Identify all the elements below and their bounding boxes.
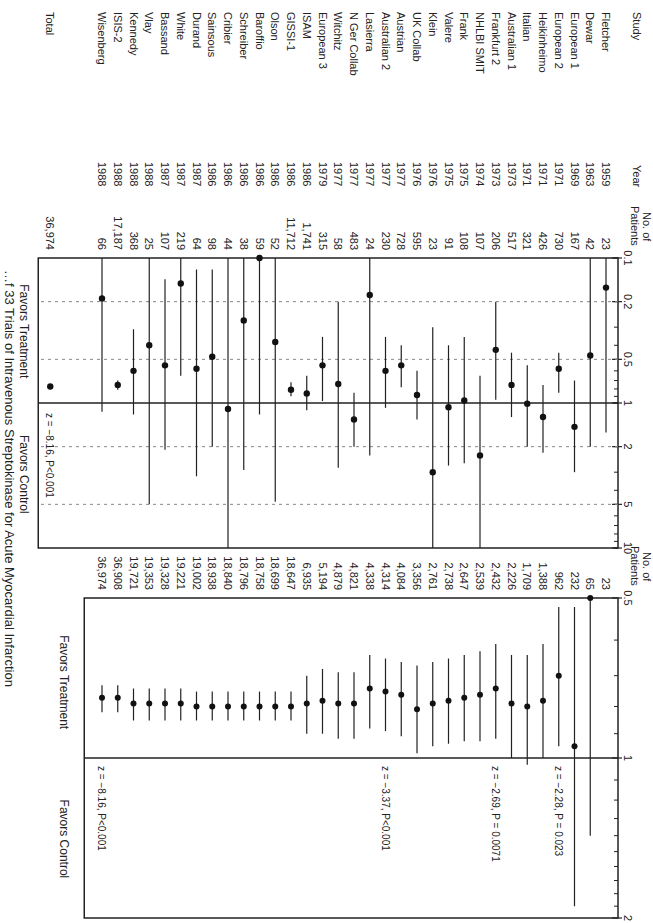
point-estimate bbox=[398, 362, 404, 368]
study-patients: 230 bbox=[380, 232, 392, 250]
study-year: 1977 bbox=[348, 162, 360, 186]
x-tick-label: 0.2 bbox=[622, 294, 634, 309]
x-tick-label: 0.1 bbox=[622, 250, 634, 265]
cumulative-estimate bbox=[540, 698, 546, 704]
cumulative-patients: 36,974 bbox=[96, 556, 108, 590]
study-name: Klein bbox=[427, 12, 439, 36]
cumulative-estimate bbox=[461, 695, 467, 701]
x-tick-label: 5 bbox=[622, 501, 634, 507]
point-estimate bbox=[178, 280, 184, 286]
cumulative-estimate bbox=[288, 703, 294, 709]
study-year: 1959 bbox=[600, 162, 612, 186]
favors-treatment-label: Favors Treatment bbox=[57, 635, 71, 730]
point-estimate bbox=[556, 365, 562, 371]
study-name: Fletcher bbox=[600, 12, 612, 52]
study-patients: 321 bbox=[521, 232, 533, 250]
total-patients: 36,974 bbox=[44, 216, 56, 250]
x-tick-label: 0.5 bbox=[622, 590, 634, 605]
cumulative-patients: 18,758 bbox=[254, 556, 266, 590]
point-estimate bbox=[587, 352, 593, 358]
forest-plot-figure: StudyYearNo. ofPatients0.10.20.512510Fle… bbox=[0, 0, 653, 923]
point-estimate bbox=[304, 390, 310, 396]
x-tick-label: 0.5 bbox=[622, 352, 634, 367]
point-estimate bbox=[115, 382, 121, 388]
point-estimate bbox=[603, 284, 609, 290]
point-estimate bbox=[193, 365, 199, 371]
study-year: 1986 bbox=[269, 162, 281, 186]
cumulative-patients: 2,432 bbox=[490, 562, 502, 590]
cumulative-estimate bbox=[320, 698, 326, 704]
cumulative-patients: 3,356 bbox=[411, 562, 423, 590]
study-patients: 219 bbox=[175, 232, 187, 250]
study-year: 1973 bbox=[490, 162, 502, 186]
study-name: Frankfurt 2 bbox=[490, 12, 502, 65]
point-estimate bbox=[288, 387, 294, 393]
study-year: 1987 bbox=[175, 162, 187, 186]
z-annotation: z = −2.69, P = 0.0071 bbox=[490, 766, 501, 862]
column-header-year: Year bbox=[631, 165, 643, 188]
point-estimate bbox=[461, 397, 467, 403]
study-name: Olson bbox=[269, 12, 281, 41]
column-header-patients: Patients bbox=[629, 546, 641, 586]
point-estimate bbox=[367, 292, 373, 298]
study-year: 1986 bbox=[301, 162, 313, 186]
study-patients: 206 bbox=[490, 232, 502, 250]
cumulative-estimate bbox=[131, 701, 137, 707]
point-estimate bbox=[524, 400, 530, 406]
study-year: 1963 bbox=[584, 162, 596, 186]
cumulative-estimate bbox=[446, 698, 452, 704]
cumulative-patients: 18,840 bbox=[222, 556, 234, 590]
rotated-figure: StudyYearNo. ofPatients0.10.20.512510Fle… bbox=[0, 0, 653, 923]
study-patients: 483 bbox=[348, 232, 360, 250]
cumulative-patients: 232 bbox=[569, 572, 581, 590]
study-year: 1987 bbox=[191, 162, 203, 186]
study-name: Cribier bbox=[222, 12, 234, 45]
study-year: 1988 bbox=[96, 162, 108, 186]
point-estimate bbox=[382, 368, 388, 374]
study-year: 1987 bbox=[159, 162, 171, 186]
study-name: Lasierra bbox=[364, 12, 376, 53]
figure-caption: …f 33 Trials of Intravenous Streptokinas… bbox=[2, 270, 17, 687]
cumulative-estimate bbox=[587, 595, 593, 601]
cumulative-estimate bbox=[194, 703, 200, 709]
study-year: 1988 bbox=[128, 162, 140, 186]
cumulative-estimate bbox=[398, 692, 404, 698]
cumulative-patients: 2,226 bbox=[506, 562, 518, 590]
cumulative-patients: 19,721 bbox=[128, 556, 140, 590]
study-patients: 25 bbox=[143, 238, 155, 250]
study-name: NHLBI SMIT bbox=[474, 12, 486, 74]
favors-control-label: Favors Control bbox=[17, 435, 31, 514]
point-estimate bbox=[99, 295, 105, 301]
point-estimate bbox=[477, 452, 483, 458]
study-year: 1977 bbox=[380, 162, 392, 186]
study-year: 1969 bbox=[569, 162, 581, 186]
cumulative-estimate bbox=[241, 703, 247, 709]
cumulative-patients: 2,738 bbox=[443, 562, 455, 590]
cumulative-patients: 23 bbox=[600, 578, 612, 590]
study-patients: 107 bbox=[159, 232, 171, 250]
study-patients: 595 bbox=[411, 232, 423, 250]
study-name: Dewar bbox=[584, 12, 596, 44]
study-patients: 44 bbox=[222, 238, 234, 250]
cumulative-patients: 18,647 bbox=[285, 556, 297, 590]
z-annotation: z = −2.28, P = 0.023 bbox=[553, 766, 564, 857]
favors-control-label: Favors Control bbox=[57, 800, 71, 879]
study-patients: 517 bbox=[506, 232, 518, 250]
cumulative-patients: 36,908 bbox=[112, 556, 124, 590]
study-year: 1986 bbox=[206, 162, 218, 186]
cumulative-estimate bbox=[367, 685, 373, 691]
study-year: 1988 bbox=[143, 162, 155, 186]
study-name: European 1 bbox=[569, 12, 581, 69]
study-name: UK Collab bbox=[411, 12, 423, 62]
point-estimate bbox=[351, 416, 357, 422]
study-name: European 3 bbox=[317, 12, 329, 69]
point-estimate bbox=[209, 354, 215, 360]
study-year: 1979 bbox=[317, 162, 329, 186]
cumulative-patients: 5,194 bbox=[317, 562, 329, 590]
point-estimate bbox=[430, 469, 436, 475]
study-name: ISIS-2 bbox=[112, 12, 124, 43]
cumulative-estimate bbox=[351, 701, 357, 707]
point-estimate bbox=[162, 362, 168, 368]
cumulative-patients: 19,328 bbox=[159, 556, 171, 590]
point-estimate bbox=[319, 362, 325, 368]
